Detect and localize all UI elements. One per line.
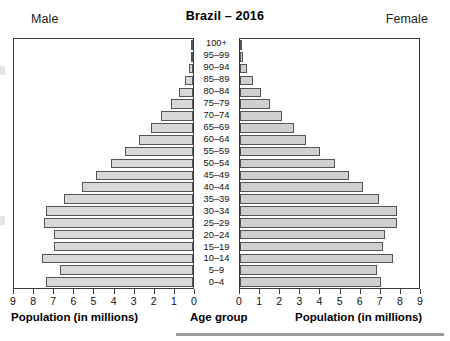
male-axis-tick xyxy=(53,289,54,294)
male-axis-tick-label: 9 xyxy=(10,295,16,307)
age-group-label: 40–44 xyxy=(194,181,239,193)
bar-row xyxy=(14,39,193,51)
age-group-label: 100+ xyxy=(194,38,239,50)
age-group-label: 5–9 xyxy=(194,265,239,277)
bar-row xyxy=(240,264,419,276)
bar-row xyxy=(14,98,193,110)
male-bar-60-64 xyxy=(139,135,193,145)
male-plot-area xyxy=(13,38,194,289)
bar-row xyxy=(240,217,419,229)
female-bar-0-4 xyxy=(240,277,381,287)
male-axis-tick xyxy=(154,289,155,294)
male-axis-tick-label: 8 xyxy=(30,295,36,307)
bar-row xyxy=(240,252,419,264)
male-axis-tick xyxy=(194,289,195,294)
female-bar-35-39 xyxy=(240,194,379,204)
female-bar-75-79 xyxy=(240,99,270,109)
female-axis-tick-label: 0 xyxy=(236,295,242,307)
scan-edge-artifact-bottom xyxy=(0,216,5,225)
female-bar-50-54 xyxy=(240,159,335,169)
male-axis-tick-label: 1 xyxy=(171,295,177,307)
female-bar-group xyxy=(240,39,419,288)
chart-title: Brazil – 2016 xyxy=(0,9,450,23)
bar-row xyxy=(14,134,193,146)
male-bar-30-34 xyxy=(46,206,193,216)
female-bar-100+ xyxy=(240,40,242,50)
female-bar-45-49 xyxy=(240,171,349,181)
bar-row xyxy=(240,205,419,217)
male-x-axis: 9876543210 xyxy=(13,289,194,311)
female-axis-tick-label: 2 xyxy=(276,295,282,307)
male-bar-75-79 xyxy=(171,99,193,109)
age-group-label: 20–24 xyxy=(194,229,239,241)
bar-row xyxy=(14,205,193,217)
male-bar-55-59 xyxy=(125,147,193,157)
age-group-label: 30–34 xyxy=(194,205,239,217)
female-axis-tick-label: 6 xyxy=(357,295,363,307)
bar-row xyxy=(14,51,193,63)
female-bar-25-29 xyxy=(240,218,397,228)
male-bar-20-24 xyxy=(54,230,193,240)
female-axis-tick xyxy=(319,289,320,294)
age-group-label: 10–14 xyxy=(194,253,239,265)
male-bar-10-14 xyxy=(42,254,193,264)
age-group-label: 50–54 xyxy=(194,158,239,170)
male-axis-tick-label: 7 xyxy=(50,295,56,307)
bar-row xyxy=(240,134,419,146)
age-group-label: 45–49 xyxy=(194,169,239,181)
bar-row xyxy=(240,146,419,158)
male-axis-tick-label: 5 xyxy=(91,295,97,307)
age-group-label: 35–39 xyxy=(194,193,239,205)
bar-row xyxy=(14,252,193,264)
male-bar-90-94 xyxy=(189,64,193,74)
age-group-label: 80–84 xyxy=(194,86,239,98)
bar-row xyxy=(14,217,193,229)
female-plot-area xyxy=(239,38,420,289)
female-axis-tick xyxy=(279,289,280,294)
population-pyramid-chart: Male Brazil – 2016 Female 100+95–9990–94… xyxy=(0,0,450,341)
bar-row xyxy=(240,98,419,110)
scan-edge-artifact-top xyxy=(0,66,5,75)
bar-row xyxy=(14,158,193,170)
bar-row xyxy=(240,39,419,51)
bar-row xyxy=(240,63,419,75)
age-group-label: 65–69 xyxy=(194,122,239,134)
female-bar-10-14 xyxy=(240,254,393,264)
bar-row xyxy=(14,193,193,205)
female-axis-tick xyxy=(299,289,300,294)
bar-row xyxy=(240,75,419,87)
age-group-label: 75–79 xyxy=(194,98,239,110)
male-axis-tick-label: 3 xyxy=(131,295,137,307)
male-bar-15-19 xyxy=(54,242,193,252)
male-bar-50-54 xyxy=(111,159,193,169)
age-group-label: 25–29 xyxy=(194,217,239,229)
age-group-label: 15–19 xyxy=(194,241,239,253)
female-axis-tick xyxy=(239,289,240,294)
female-bar-85-89 xyxy=(240,76,253,86)
male-axis-tick-label: 2 xyxy=(151,295,157,307)
female-axis-tick-label: 5 xyxy=(337,295,343,307)
male-bar-80-84 xyxy=(179,88,193,98)
male-bar-100+ xyxy=(191,40,193,50)
male-axis-tick-label: 6 xyxy=(70,295,76,307)
male-bar-0-4 xyxy=(46,277,193,287)
female-bar-30-34 xyxy=(240,206,397,216)
female-axis-tick-label: 4 xyxy=(317,295,323,307)
bar-row xyxy=(240,181,419,193)
male-axis-tick xyxy=(174,289,175,294)
male-bar-40-44 xyxy=(82,182,193,192)
male-bar-70-74 xyxy=(161,111,193,121)
age-group-label: 70–74 xyxy=(194,110,239,122)
male-axis-tick-label: 4 xyxy=(111,295,117,307)
male-bar-95-99 xyxy=(191,52,193,62)
female-axis-tick xyxy=(259,289,260,294)
female-axis-tick xyxy=(380,289,381,294)
female-axis-tick-label: 1 xyxy=(256,295,262,307)
male-axis-tick xyxy=(73,289,74,294)
female-axis-tick-label: 7 xyxy=(377,295,383,307)
age-group-label: 85–89 xyxy=(194,74,239,86)
bar-row xyxy=(14,110,193,122)
male-bar-65-69 xyxy=(151,123,193,133)
male-bar-25-29 xyxy=(44,218,193,228)
age-group-label: 60–64 xyxy=(194,134,239,146)
